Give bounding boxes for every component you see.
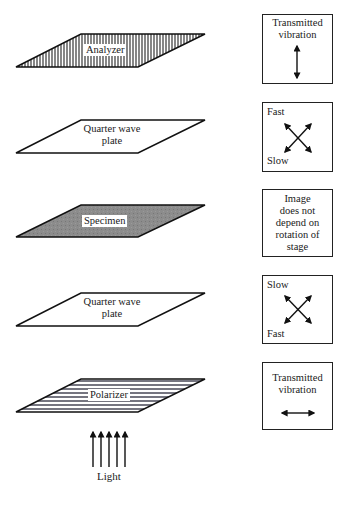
polarizer-label: Polarizer	[88, 389, 130, 401]
specimen-info-box: Image does not depend on rotation of sta…	[262, 189, 333, 257]
quarter-wave-plate-bottom-label: Quarter wave plate	[82, 296, 142, 320]
analyzer-info-box: Transmitted vibration	[262, 14, 333, 84]
qwp-bottom-info-box: Slow Fast	[262, 275, 333, 344]
qwp-top-label-line1: Quarter wave	[82, 123, 142, 135]
upward-arrows-icon	[93, 432, 125, 467]
info-line: does not	[263, 205, 332, 217]
slow-label: Slow	[267, 155, 289, 167]
vertical-double-arrow-icon	[262, 14, 333, 84]
qwp-top-info-box: Fast Slow	[262, 102, 333, 172]
analyzer-label: Analyzer	[84, 44, 126, 56]
qwp-top-label-line2: plate	[82, 135, 142, 147]
info-line: rotation of	[263, 229, 332, 241]
info-line: depend on	[263, 217, 332, 229]
horizontal-double-arrow-icon	[262, 362, 333, 430]
fast-label: Fast	[267, 328, 285, 340]
quarter-wave-plate-top-label: Quarter wave plate	[82, 123, 142, 147]
specimen-label: Specimen	[82, 215, 127, 227]
info-line: stage	[263, 241, 332, 253]
info-line: Image	[263, 193, 332, 205]
polarizer-info-box: Transmitted vibration	[262, 362, 333, 430]
light-label: Light	[92, 470, 126, 482]
qwp-bottom-label-line2: plate	[82, 308, 142, 320]
qwp-bottom-label-line1: Quarter wave	[82, 296, 142, 308]
